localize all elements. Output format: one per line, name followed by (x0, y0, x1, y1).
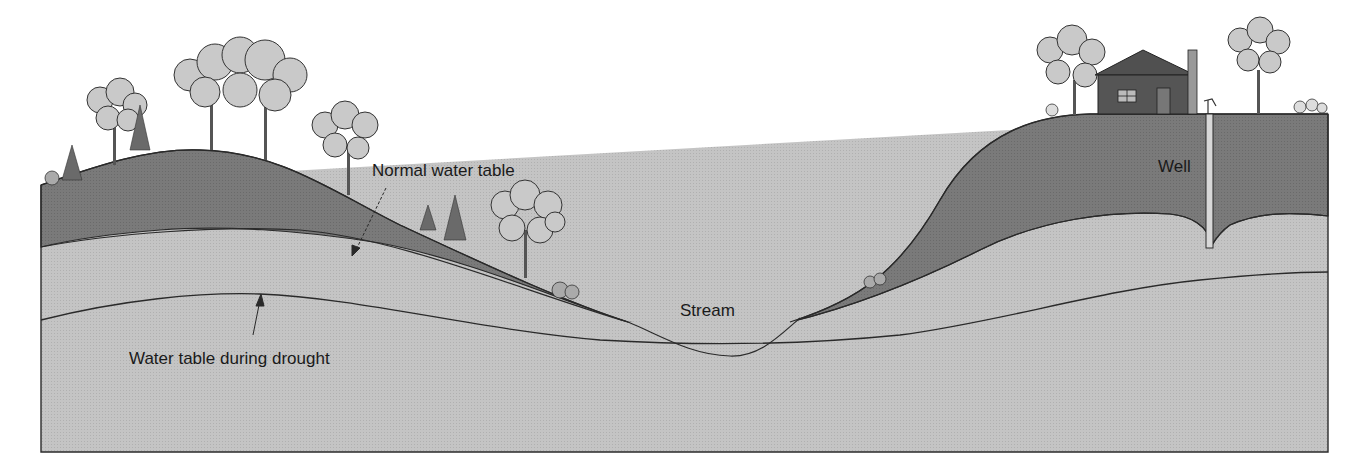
well-label: Well (1158, 157, 1191, 176)
well-shaft (1206, 114, 1213, 248)
pump-icon (1204, 99, 1216, 114)
house-icon (1095, 50, 1197, 114)
drought-water-table-label: Water table during drought (129, 349, 330, 368)
groundwater-diagram: Normal water table Water table during dr… (0, 0, 1350, 471)
stream-label: Stream (680, 301, 735, 320)
normal-water-table-label: Normal water table (372, 161, 515, 180)
tree-icon (1228, 17, 1290, 114)
tree-icon (174, 37, 307, 160)
tree-icon (1037, 25, 1105, 115)
